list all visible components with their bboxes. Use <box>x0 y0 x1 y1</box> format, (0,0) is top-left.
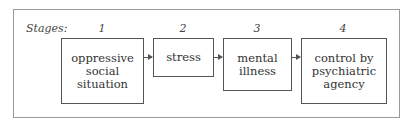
stage-number-2: 2 <box>173 22 193 35</box>
stage-box-4: control by psychiatric agency <box>301 38 387 104</box>
arrow-2-to-3-icon <box>214 57 222 58</box>
stage-number-3: 3 <box>247 22 267 35</box>
stage-label-3: mental illness <box>237 52 277 78</box>
arrow-1-to-2-icon <box>144 57 152 58</box>
stage-label-1: oppressive social situation <box>71 52 134 91</box>
stage-label-4: control by psychiatric agency <box>312 52 376 91</box>
stage-number-1: 1 <box>92 22 112 35</box>
stage-label-2: stress <box>166 51 201 64</box>
stages-label: Stages: <box>26 22 67 35</box>
stage-number-4: 4 <box>333 22 353 35</box>
stage-box-2: stress <box>153 38 214 77</box>
stage-box-1: oppressive social situation <box>61 38 144 104</box>
stage-box-3: mental illness <box>223 38 292 91</box>
arrow-3-to-4-icon <box>292 57 300 58</box>
